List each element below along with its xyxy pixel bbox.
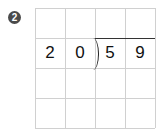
problem-number-badge: 2 (8, 11, 21, 24)
grid-line (35, 98, 155, 99)
dividend-digit: 5 (95, 38, 125, 68)
grid-line (35, 128, 155, 129)
division-bar (95, 38, 155, 39)
division-bracket (87, 38, 99, 70)
grid-line (35, 8, 155, 9)
dividend-digit: 9 (125, 38, 155, 68)
divisor-digit: 2 (35, 38, 65, 68)
long-division-grid: 2 0 5 9 (35, 8, 155, 128)
grid-line (155, 8, 156, 128)
